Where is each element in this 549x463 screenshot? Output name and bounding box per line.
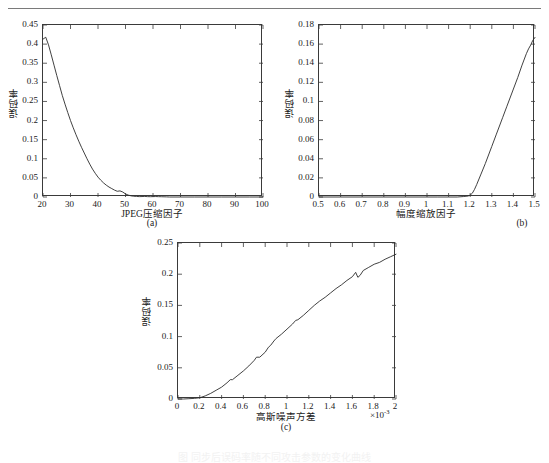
x-tick-label-c: 2 <box>393 402 398 411</box>
data-curve-a <box>43 25 263 197</box>
plot-area-a <box>42 24 262 196</box>
x-tick-label-b: 0.8 <box>377 200 388 209</box>
x-axis-title-c: 高斯噪声方差 <box>256 409 316 423</box>
y-tick-label-b: 0.12 <box>277 77 314 86</box>
x-tick-label-b: 1.4 <box>507 200 518 209</box>
x-tick-label-b: 0.7 <box>356 200 367 209</box>
x-tick-label-b: 0.6 <box>334 200 345 209</box>
y-tick-label-b: 0.06 <box>277 134 314 143</box>
page-top-rule <box>8 8 541 9</box>
y-tick-label-a: 0.15 <box>0 134 38 143</box>
subcaption-c: (c) <box>281 422 292 432</box>
x-axis-exponent-c: ×10-3 <box>370 408 390 420</box>
y-tick-label-a: 0.05 <box>0 172 38 181</box>
data-curve-b <box>319 25 535 197</box>
y-tick-label-c: 0.2 <box>130 269 173 278</box>
x-tick-label-a: 30 <box>65 200 74 209</box>
x-tick-label-c: 0.2 <box>193 402 204 411</box>
subcaption-b: (b) <box>516 218 527 228</box>
figure-panel-b: 0.50.60.70.80.911.11.21.31.41.500.020.04… <box>277 14 549 224</box>
exponent-mantissa: ×10 <box>370 410 384 420</box>
figure-panel-c: 00.20.40.60.811.21.41.61.8200.050.10.150… <box>130 228 430 460</box>
y-tick-label-a: 0.1 <box>0 153 38 162</box>
y-tick-label-a: 0.35 <box>0 58 38 67</box>
x-tick-label-a: 90 <box>230 200 239 209</box>
x-axis-title-b: 幅度缩放因子 <box>396 206 456 220</box>
x-tick-label-b: 1.3 <box>485 200 496 209</box>
plot-area-c <box>177 242 395 398</box>
plot-area-b <box>318 24 534 196</box>
x-tick-label-b: 1.5 <box>528 200 539 209</box>
y-axis-title-c: 误码率 <box>140 296 154 326</box>
y-tick-label-b: 0.18 <box>277 20 314 29</box>
data-curve-c <box>178 243 396 399</box>
y-tick-label-a: 0.3 <box>0 77 38 86</box>
y-tick-label-c: 0.1 <box>130 331 173 340</box>
x-tick-label-c: 0.4 <box>215 402 226 411</box>
y-axis-title-a: 误码率 <box>7 88 21 118</box>
x-tick-label-a: 80 <box>203 200 212 209</box>
exponent-power: -3 <box>384 408 389 415</box>
y-tick-label-b: 0.16 <box>277 39 314 48</box>
y-tick-label-a: 0 <box>0 192 38 201</box>
subcaption-a: (a) <box>147 218 158 228</box>
x-tick-label-b: 0.5 <box>312 200 323 209</box>
figure-panel-a: 203040506070809010000.050.10.150.20.250.… <box>0 14 278 224</box>
y-tick-label-b: 0.04 <box>277 153 314 162</box>
y-tick-label-a: 0.45 <box>0 20 38 29</box>
x-tick-label-a: 40 <box>93 200 102 209</box>
x-tick-label-a: 20 <box>38 200 47 209</box>
y-tick-label-c: 0.05 <box>130 362 173 371</box>
x-tick-label-b: 1.2 <box>464 200 475 209</box>
page-figure-caption: 图 同步后误码率随不同攻击参数的变化曲线 <box>178 449 371 463</box>
y-tick-label-a: 0.4 <box>0 39 38 48</box>
y-axis-title-b: 误码率 <box>283 88 297 118</box>
x-tick-label-c: 1.6 <box>346 402 357 411</box>
x-tick-label-c: 0.6 <box>237 402 248 411</box>
y-tick-label-b: 0 <box>277 192 314 201</box>
y-tick-label-c: 0.25 <box>130 238 173 247</box>
y-tick-label-c: 0 <box>130 394 173 403</box>
x-tick-label-c: 1.4 <box>324 402 335 411</box>
x-tick-label-a: 100 <box>255 200 269 209</box>
y-tick-label-b: 0.02 <box>277 172 314 181</box>
y-tick-label-b: 0.14 <box>277 58 314 67</box>
x-tick-label-c: 0 <box>175 402 180 411</box>
